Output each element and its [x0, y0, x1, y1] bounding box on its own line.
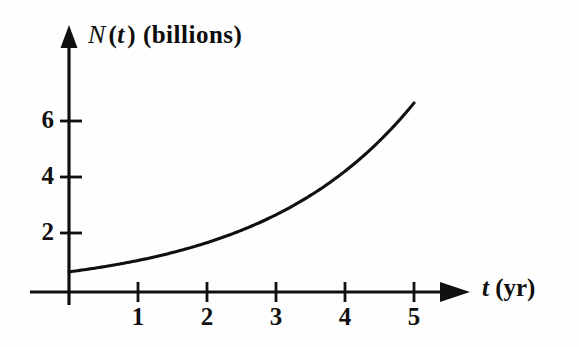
x-axis-title: t (yr) [482, 274, 535, 302]
y-axis-title: N (t ) (billions) [88, 20, 242, 50]
y-tick-label-4: 4 [30, 162, 54, 190]
x-tick-label-2: 2 [194, 303, 220, 331]
x-tick-label-4: 4 [332, 303, 358, 331]
x-tick-label-1: 1 [125, 303, 151, 331]
exponential-growth-curve [69, 103, 414, 272]
y-tick-label-6: 6 [30, 106, 54, 134]
x-axis-arrowhead [440, 282, 470, 302]
x-tick-label-5: 5 [401, 303, 427, 331]
y-tick-label-2: 2 [30, 218, 54, 246]
x-tick-label-3: 3 [263, 303, 289, 331]
graph-figure: N (t ) (billions) t (yr) 6 4 2 1 2 3 4 5 [0, 0, 579, 347]
y-axis-arrowhead [61, 25, 78, 48]
